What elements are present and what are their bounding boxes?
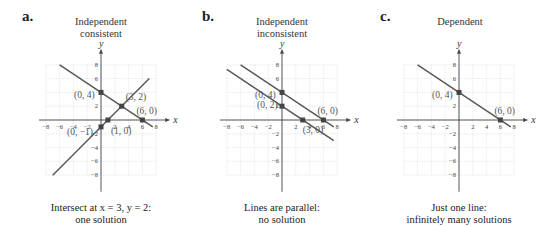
panel-caption: Lines are parallel: no solution bbox=[197, 202, 367, 226]
x-tick-label: −8 bbox=[223, 123, 230, 130]
point-label: (0, 4) bbox=[74, 90, 95, 101]
y-axis-arrow-icon bbox=[457, 49, 461, 54]
y-axis-label: y bbox=[98, 38, 104, 49]
y-tick-label: 8 bbox=[453, 61, 456, 68]
point-marker-icon bbox=[457, 90, 462, 95]
y-tick-label: 6 bbox=[95, 75, 99, 82]
x-axis-label: x bbox=[172, 114, 178, 125]
y-tick-label: −2 bbox=[272, 130, 279, 137]
point-marker-icon bbox=[105, 118, 110, 123]
x-tick-label: −2 bbox=[265, 123, 272, 130]
y-tick-label: −6 bbox=[449, 157, 457, 164]
y-tick-label: −6 bbox=[91, 157, 99, 164]
point-marker-icon bbox=[99, 124, 104, 129]
x-axis-arrow-icon bbox=[523, 118, 528, 122]
x-tick-label: 8 bbox=[155, 123, 158, 130]
x-tick-label: 2 bbox=[294, 123, 297, 130]
x-tick-label: −2 bbox=[442, 123, 449, 130]
x-tick-label: 4 bbox=[485, 123, 489, 130]
x-tick-label: 2 bbox=[471, 123, 474, 130]
y-tick-label: 6 bbox=[276, 75, 280, 82]
graph-c: xy−8−6−4−22468862−2−4−6−8(0, 4)(6, 0) bbox=[370, 0, 553, 200]
x-tick-label: 6 bbox=[499, 123, 503, 130]
x-tick-label: −6 bbox=[414, 123, 422, 130]
x-tick-label: −6 bbox=[56, 123, 64, 130]
point-marker-icon bbox=[280, 90, 285, 95]
point-label: (1, 0) bbox=[111, 126, 132, 137]
y-tick-label: 2 bbox=[453, 102, 456, 109]
x-axis-arrow-icon bbox=[165, 118, 170, 122]
point-marker-icon bbox=[280, 104, 285, 109]
y-axis-arrow-icon bbox=[280, 49, 284, 54]
y-tick-label: −8 bbox=[449, 171, 456, 178]
x-tick-label: −4 bbox=[251, 123, 259, 130]
x-axis-label: x bbox=[530, 114, 536, 125]
point-marker-icon bbox=[119, 104, 124, 109]
x-tick-label: −6 bbox=[237, 123, 245, 130]
y-tick-label: −6 bbox=[272, 157, 280, 164]
y-tick-label: −4 bbox=[449, 144, 457, 151]
x-tick-label: −8 bbox=[42, 123, 49, 130]
y-tick-label: 8 bbox=[276, 61, 279, 68]
y-tick-label: −8 bbox=[91, 171, 98, 178]
panel-a: a. Independent consistent xy−8−6−4−22468… bbox=[0, 0, 185, 226]
y-tick-label: 2 bbox=[95, 102, 98, 109]
panel-b: b. Independent inconsistent xy−8−6−4−224… bbox=[185, 0, 370, 226]
y-tick-label: 6 bbox=[453, 75, 457, 82]
panel-c: c. Dependent xy−8−6−4−22468862−2−4−6−8(0… bbox=[370, 0, 553, 226]
x-axis-label: x bbox=[353, 114, 359, 125]
x-tick-label: 6 bbox=[141, 123, 145, 130]
x-tick-label: −8 bbox=[400, 123, 407, 130]
x-axis-arrow-icon bbox=[346, 118, 351, 122]
point-label: (0, 4) bbox=[432, 90, 453, 101]
point-label: (3, 0) bbox=[303, 125, 324, 136]
point-marker-icon bbox=[140, 118, 145, 123]
y-axis-arrow-icon bbox=[99, 49, 103, 54]
y-tick-label: −2 bbox=[449, 130, 456, 137]
point-label: (6, 0) bbox=[494, 106, 515, 117]
panel-caption: Intersect at x = 3, y = 2: one solution bbox=[16, 202, 186, 226]
point-marker-icon bbox=[99, 90, 104, 95]
point-label: (3, 2) bbox=[126, 92, 147, 103]
point-marker-icon bbox=[498, 118, 503, 123]
y-axis-label: y bbox=[456, 38, 462, 49]
point-label: (6, 0) bbox=[317, 106, 338, 117]
point-label: (6, 0) bbox=[136, 106, 157, 117]
point-label: (0, 2) bbox=[257, 100, 278, 111]
graph-b: xy−8−6−4−22468862−2−4−6−8(0, 4)(0, 2)(6,… bbox=[185, 0, 370, 200]
panel-caption: Just one line: infinitely many solutions bbox=[374, 202, 544, 226]
y-tick-label: 8 bbox=[95, 61, 98, 68]
graph-a: xy−8−6−4−22468862−2−4−6−8(0, 4)(3, 2)(6,… bbox=[0, 0, 185, 200]
y-axis-label: y bbox=[279, 38, 285, 49]
y-tick-label: −4 bbox=[91, 144, 99, 151]
x-tick-label: −4 bbox=[428, 123, 436, 130]
point-label: (0, −1) bbox=[67, 127, 93, 138]
point-marker-icon bbox=[321, 118, 326, 123]
x-tick-label: 8 bbox=[513, 123, 516, 130]
y-tick-label: −4 bbox=[272, 144, 280, 151]
point-marker-icon bbox=[300, 118, 305, 123]
x-tick-label: 8 bbox=[336, 123, 339, 130]
y-tick-label: −8 bbox=[272, 171, 279, 178]
